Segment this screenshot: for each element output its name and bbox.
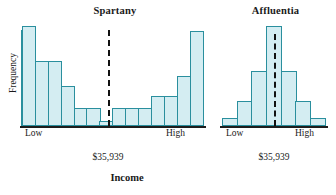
plot-area-spartany [22,26,204,126]
y-axis-title: Frequency [8,38,18,108]
x-axis-title: Income [0,172,254,183]
median-value-label-affluentia: $35,939 [244,152,304,162]
median-line-spartany [108,30,110,126]
panel-title-affluentia: Affluentia [223,5,328,16]
y-axis-line [21,30,23,127]
panel-title-spartany: Spartany [60,5,170,16]
x-tick-high-affluentia: High [295,128,314,138]
histogram-comparison-figure: Spartany Affluentia Low High Low High $3… [0,0,336,195]
histogram-bars-spartany [22,26,204,126]
x-tick-low-spartany: Low [25,128,42,138]
median-value-label-spartany: $35,939 [78,152,138,162]
affluentia-bar [310,118,326,126]
spartany-bar [190,31,204,126]
x-tick-low-affluentia: Low [226,128,243,138]
median-line-affluentia [274,34,276,126]
x-tick-high-spartany: High [166,128,185,138]
